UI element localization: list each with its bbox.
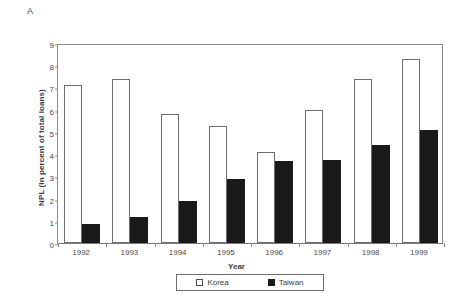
bar-korea-1995 [209, 126, 227, 243]
x-axis-title: Year [0, 262, 473, 271]
chart-figure: A NPL (in percent of total loans) 012345… [0, 0, 473, 300]
y-axis-tick-mark [55, 111, 58, 112]
x-axis-tick-label: 1999 [410, 248, 428, 257]
y-axis-tick-mark [55, 222, 58, 223]
chart-legend: Korea Taiwan [176, 274, 324, 291]
legend-item-taiwan: Taiwan [268, 278, 304, 287]
x-axis-tick-mark [106, 243, 107, 247]
bar-korea-1993 [112, 79, 130, 243]
y-axis-title: NPL (in percent of total loans) [37, 43, 46, 253]
y-axis-tick-mark [55, 156, 58, 157]
x-axis-tick-label: 1994 [169, 248, 187, 257]
x-axis-tick-label: 1993 [120, 248, 138, 257]
panel-label: A [27, 6, 33, 16]
x-axis-tick-label: 1992 [72, 248, 90, 257]
x-axis-tick-label: 1995 [217, 248, 235, 257]
x-axis-tick-mark [299, 243, 300, 247]
y-axis-tick-mark [55, 200, 58, 201]
bar-taiwan-1992 [82, 224, 100, 243]
bar-taiwan-1993 [130, 217, 148, 243]
y-axis-tick-mark [55, 45, 58, 46]
plot-area: 0123456789 [57, 44, 443, 244]
bar-korea-1992 [64, 85, 82, 243]
x-axis-tick-label: 1997 [313, 248, 331, 257]
y-axis-tick-mark [55, 178, 58, 179]
y-axis-tick-mark [55, 133, 58, 134]
x-axis-tick-mark [155, 243, 156, 247]
legend-swatch-taiwan-icon [268, 279, 275, 286]
legend-label-taiwan: Taiwan [279, 278, 304, 287]
legend-item-korea: Korea [196, 278, 228, 287]
bar-korea-1994 [161, 114, 179, 243]
x-axis-tick-mark [444, 243, 445, 247]
bar-taiwan-1996 [275, 161, 293, 243]
bar-korea-1996 [257, 152, 275, 243]
x-axis-tick-label: 1996 [265, 248, 283, 257]
bar-taiwan-1995 [227, 179, 245, 243]
x-axis-tick-mark [348, 243, 349, 247]
x-axis-tick-mark [58, 243, 59, 247]
legend-label-korea: Korea [207, 278, 228, 287]
bar-taiwan-1997 [323, 160, 341, 243]
bar-taiwan-1998 [372, 145, 390, 243]
x-axis-tick-mark [396, 243, 397, 247]
bar-korea-1997 [305, 110, 323, 243]
bar-korea-1998 [354, 79, 372, 243]
y-axis-tick-mark [55, 89, 58, 90]
bar-taiwan-1999 [420, 130, 438, 243]
legend-swatch-korea-icon [196, 279, 203, 286]
y-axis-tick-mark [55, 67, 58, 68]
x-axis-tick-mark [203, 243, 204, 247]
bar-taiwan-1994 [179, 201, 197, 243]
bar-korea-1999 [402, 59, 420, 243]
x-axis-tick-mark [251, 243, 252, 247]
x-axis-tick-label: 1998 [362, 248, 380, 257]
